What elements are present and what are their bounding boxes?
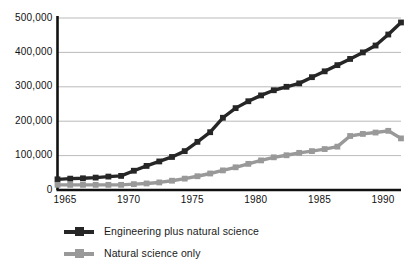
data-point-marker: [322, 146, 328, 152]
data-point-marker: [207, 171, 213, 177]
legend-item-engineering-plus-natural-science: Engineering plus natural science: [64, 222, 364, 240]
legend-item-natural-science-only: Natural science only: [64, 244, 364, 262]
y-tick-label: 300,000: [0, 80, 53, 91]
data-point-marker: [233, 164, 239, 170]
data-point-marker: [220, 167, 226, 173]
data-point-marker: [118, 182, 124, 188]
data-point-marker: [245, 98, 251, 104]
data-point-marker: [347, 56, 353, 62]
legend-label-natural-science-only: Natural science only: [104, 247, 201, 259]
y-tick-label: 200,000: [0, 115, 53, 126]
data-point-marker: [131, 168, 137, 174]
data-point-marker: [182, 148, 188, 154]
data-point-marker: [347, 133, 353, 139]
legend-swatch-gray-line: [64, 247, 94, 260]
data-point-marker: [55, 182, 61, 188]
data-point-marker: [131, 181, 137, 187]
data-point-marker: [169, 154, 175, 160]
data-point-marker: [93, 182, 99, 188]
data-point-marker: [105, 182, 111, 188]
data-point-marker: [296, 150, 302, 156]
data-point-marker: [67, 176, 73, 182]
data-point-marker: [360, 131, 366, 137]
data-point-marker: [284, 84, 290, 90]
data-point-marker: [156, 180, 162, 186]
data-point-marker: [105, 174, 111, 180]
x-tick-label: 1970: [117, 194, 140, 205]
x-tick-label: 1980: [244, 194, 267, 205]
data-point-marker: [195, 173, 201, 179]
data-point-marker: [334, 144, 340, 150]
data-point-marker: [233, 105, 239, 111]
data-point-marker: [385, 32, 391, 38]
data-point-marker: [118, 173, 124, 179]
data-point-marker: [258, 158, 264, 164]
data-point-marker: [385, 128, 391, 134]
data-point-marker: [207, 129, 213, 135]
y-tick-label: 500,000: [0, 12, 53, 23]
data-point-marker: [80, 182, 86, 188]
chart-figure: 0100,000200,000300,000400,000500,000 196…: [0, 0, 420, 276]
data-point-marker: [360, 50, 366, 56]
data-point-marker: [144, 181, 150, 187]
data-point-marker: [271, 87, 277, 93]
data-point-marker: [398, 136, 404, 142]
data-point-marker: [398, 20, 404, 26]
data-point-marker: [144, 163, 150, 169]
x-tick-label: 1990: [372, 194, 395, 205]
data-point-marker: [322, 68, 328, 74]
data-point-marker: [55, 176, 61, 182]
data-point-marker: [373, 43, 379, 49]
legend-label-engineering-plus-natural-science: Engineering plus natural science: [104, 225, 259, 237]
data-point-marker: [271, 154, 277, 160]
y-tick-label: 0: [0, 184, 53, 195]
x-tick-label: 1965: [54, 194, 77, 205]
data-point-marker: [258, 93, 264, 99]
x-tick-label: 1985: [308, 194, 331, 205]
data-point-marker: [334, 62, 340, 68]
data-point-marker: [284, 152, 290, 158]
data-point-marker: [169, 178, 175, 184]
y-tick-label: 100,000: [0, 149, 53, 160]
data-point-marker: [309, 148, 315, 154]
data-point-marker: [195, 139, 201, 145]
data-point-marker: [309, 74, 315, 80]
legend-swatch-black-line: [64, 225, 94, 238]
x-tick-label: 1975: [181, 194, 204, 205]
y-tick-label: 400,000: [0, 46, 53, 57]
data-point-marker: [93, 175, 99, 181]
data-point-marker: [373, 130, 379, 136]
chart-legend: Engineering plus natural science Natural…: [64, 222, 364, 266]
data-point-marker: [182, 176, 188, 182]
data-point-marker: [80, 175, 86, 181]
data-point-marker: [220, 115, 226, 121]
data-point-marker: [67, 182, 73, 188]
data-point-marker: [245, 161, 251, 167]
data-point-marker: [156, 159, 162, 165]
data-point-marker: [296, 80, 302, 86]
